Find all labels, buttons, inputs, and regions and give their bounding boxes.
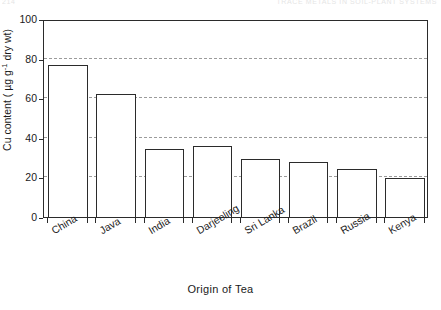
y-tick-label-40: 40	[4, 132, 37, 144]
bar-java[interactable]	[96, 94, 135, 217]
x-tick-mark-kenya-right	[424, 218, 425, 223]
x-tick-mark-russia-right	[376, 218, 377, 223]
y-tick-label-20: 20	[4, 171, 37, 183]
x-tick-mark-sri-lanka-right	[279, 218, 280, 223]
bar-kenya[interactable]	[385, 178, 424, 217]
bar-chart-figure: Cu content ( µg g-1 dry wt) 020406080100…	[0, 0, 441, 310]
x-tick-mark-china-left	[47, 218, 48, 223]
y-tick-label-60: 60	[4, 92, 37, 104]
y-tick-label-0: 0	[4, 211, 37, 223]
x-tick-mark-india-left	[144, 218, 145, 223]
x-tick-mark-java-right	[135, 218, 136, 223]
plot-area	[43, 20, 428, 218]
x-tick-mark-russia-left	[336, 218, 337, 223]
x-tick-mark-java-left	[95, 218, 96, 223]
y-tick-label-80: 80	[4, 53, 37, 65]
x-axis-title: Origin of Tea	[0, 283, 441, 295]
x-tick-mark-darjeeling-left	[192, 218, 193, 223]
bar-india[interactable]	[145, 149, 184, 217]
x-tick-mark-china-right	[87, 218, 88, 223]
bars-group	[44, 21, 427, 217]
y-tick-label-100: 100	[4, 13, 37, 25]
bar-russia[interactable]	[337, 169, 376, 218]
x-tick-mark-brazil-right	[327, 218, 328, 223]
x-tick-mark-kenya-left	[384, 218, 385, 223]
bar-china[interactable]	[48, 65, 87, 217]
x-tick-mark-brazil-left	[288, 218, 289, 223]
bar-brazil[interactable]	[289, 162, 328, 217]
x-tick-mark-darjeeling-right	[231, 218, 232, 223]
x-tick-mark-india-right	[183, 218, 184, 223]
x-tick-mark-sri-lanka-left	[240, 218, 241, 223]
y-tick-mark-0	[39, 218, 43, 219]
